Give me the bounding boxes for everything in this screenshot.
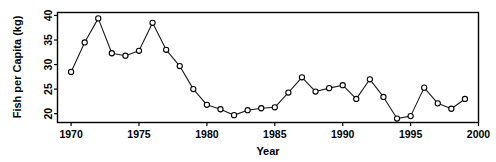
data-point-marker: [123, 53, 128, 58]
data-point-marker: [422, 85, 427, 90]
y-tick-label: 40: [42, 9, 54, 21]
y-tick-label: 30: [42, 59, 54, 71]
data-point-marker: [340, 83, 345, 88]
x-tick-label: 1985: [263, 128, 287, 140]
data-point-marker: [449, 106, 454, 111]
x-tick-label: 1990: [331, 128, 355, 140]
data-point-marker: [381, 94, 386, 99]
data-point-marker: [191, 87, 196, 92]
data-point-marker: [394, 116, 399, 121]
data-point-marker: [245, 108, 250, 113]
data-point-marker: [408, 114, 413, 119]
x-tick-label: 1995: [399, 128, 423, 140]
data-point-marker: [299, 75, 304, 80]
x-tick-label: 2000: [467, 128, 491, 140]
data-point-marker: [109, 51, 114, 56]
data-point-marker: [313, 89, 318, 94]
data-point-marker: [462, 96, 467, 101]
data-point-marker: [68, 69, 73, 74]
x-tick-label: 1980: [195, 128, 219, 140]
data-point-marker: [96, 16, 101, 21]
y-tick-label: 20: [42, 108, 54, 120]
x-axis-title: Year: [256, 145, 280, 157]
y-tick-label: 35: [42, 34, 54, 46]
data-point-marker: [327, 86, 332, 91]
data-point-marker: [82, 40, 87, 45]
data-point-marker: [177, 63, 182, 68]
data-point-marker: [286, 90, 291, 95]
y-axis-title: Fish per Capita (kg): [11, 15, 23, 118]
data-point-marker: [367, 77, 372, 82]
data-point-marker: [204, 102, 209, 107]
x-tick-label: 1970: [59, 128, 83, 140]
chart-figure: 2025303540 1970197519801985199019952000 …: [0, 0, 496, 162]
line-chart: 2025303540 1970197519801985199019952000 …: [0, 0, 496, 162]
data-point-marker: [259, 106, 264, 111]
data-point-marker: [218, 107, 223, 112]
data-point-marker: [164, 47, 169, 52]
x-tick-label: 1975: [127, 128, 151, 140]
y-tick-label: 25: [42, 83, 54, 95]
data-point-marker: [354, 96, 359, 101]
data-point-marker: [272, 105, 277, 110]
data-point-marker: [150, 20, 155, 25]
data-point-marker: [435, 101, 440, 106]
data-point-marker: [136, 48, 141, 53]
data-point-marker: [231, 113, 236, 118]
